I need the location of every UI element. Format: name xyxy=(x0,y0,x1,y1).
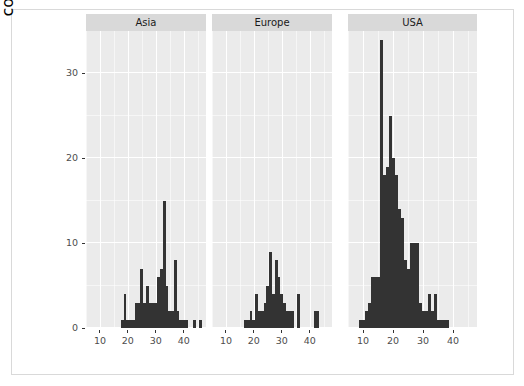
gridline-major-vertical xyxy=(226,31,227,328)
y-axis-title: count xyxy=(0,3,17,17)
panel-plot-area xyxy=(212,31,332,328)
tick-mark xyxy=(82,328,85,329)
histogram-bar xyxy=(317,311,320,328)
tick-mark xyxy=(82,73,85,74)
facet-panel-usa: USA xyxy=(348,14,477,328)
facet-panel-asia: Asia xyxy=(86,14,206,328)
x-axis-tick-label: 20 xyxy=(387,335,399,346)
x-axis-tick: 10 xyxy=(87,330,113,346)
gridline-minor-vertical xyxy=(438,31,439,328)
x-axis-tick: 20 xyxy=(115,330,141,346)
gridline-major-vertical xyxy=(254,31,255,328)
tick-mark xyxy=(225,330,226,333)
x-axis-tick: 40 xyxy=(297,330,323,346)
x-axis-tick: 40 xyxy=(440,330,466,346)
facet-panel-europe: Europe xyxy=(212,14,332,328)
y-axis-tick-label: 30 xyxy=(66,67,78,78)
facet-strip-label: Europe xyxy=(212,14,332,31)
gridline-minor-vertical xyxy=(212,31,213,328)
x-axis-tick: 20 xyxy=(380,330,406,346)
y-axis-tick: 30 xyxy=(66,67,85,79)
x-axis-tick: 30 xyxy=(269,330,295,346)
gridline-major-vertical xyxy=(184,31,185,328)
tick-mark xyxy=(281,330,282,333)
gridline-minor-vertical xyxy=(348,31,349,328)
x-axis-tick-label: 40 xyxy=(178,335,190,346)
gridline-major-horizontal xyxy=(212,72,332,73)
gridline-minor-horizontal xyxy=(86,115,206,116)
gridline-minor-vertical xyxy=(324,31,325,328)
x-axis-europe: 10203040 xyxy=(212,330,332,352)
tick-mark xyxy=(393,330,394,333)
tick-mark xyxy=(99,330,100,333)
x-axis-tick-label: 30 xyxy=(276,335,288,346)
gridline-major-vertical xyxy=(423,31,424,328)
histogram-bar xyxy=(297,294,300,328)
y-axis-tick-label: 10 xyxy=(66,237,78,248)
x-axis-tick-label: 10 xyxy=(220,335,232,346)
gridline-minor-vertical xyxy=(468,31,469,328)
x-axis-tick: 10 xyxy=(350,330,376,346)
tick-mark xyxy=(82,158,85,159)
histogram-bar xyxy=(193,320,196,328)
tick-mark xyxy=(253,330,254,333)
tick-mark xyxy=(453,330,454,333)
y-axis-tick-label: 0 xyxy=(72,322,78,333)
facet-strip-label: USA xyxy=(348,14,477,31)
gridline-minor-vertical xyxy=(86,31,87,328)
y-axis-tick: 10 xyxy=(66,237,85,249)
tick-mark xyxy=(82,243,85,244)
gridline-minor-horizontal xyxy=(86,200,206,201)
tick-mark xyxy=(309,330,310,333)
x-axis-tick-label: 40 xyxy=(447,335,459,346)
y-axis: 0102030 xyxy=(44,32,85,328)
x-axis-tick: 40 xyxy=(171,330,197,346)
x-axis-tick-label: 10 xyxy=(94,335,106,346)
gridline-minor-horizontal xyxy=(212,200,332,201)
histogram-bar xyxy=(292,311,295,328)
gridline-minor-vertical xyxy=(296,31,297,328)
gridline-major-vertical xyxy=(310,31,311,328)
x-axis-tick-label: 10 xyxy=(357,335,369,346)
x-axis-tick-label: 30 xyxy=(417,335,429,346)
gridline-major-horizontal xyxy=(86,157,206,158)
x-axis-usa: 10203040 xyxy=(348,330,477,352)
panel-plot-area xyxy=(348,31,477,328)
gridline-major-vertical xyxy=(128,31,129,328)
panel-plot-area xyxy=(86,31,206,328)
gridline-major-horizontal xyxy=(86,72,206,73)
gridline-major-horizontal xyxy=(212,242,332,243)
gridline-minor-horizontal xyxy=(212,115,332,116)
gridline-minor-horizontal xyxy=(348,115,477,116)
gridline-minor-horizontal xyxy=(212,285,332,286)
x-axis-tick: 20 xyxy=(241,330,267,346)
gridline-major-vertical xyxy=(282,31,283,328)
histogram-bar xyxy=(185,320,188,328)
tick-mark xyxy=(155,330,156,333)
facet-strip-label: Asia xyxy=(86,14,206,31)
gridline-major-horizontal xyxy=(212,157,332,158)
tick-mark xyxy=(363,330,364,333)
x-axis-tick-label: 20 xyxy=(122,335,134,346)
gridline-minor-vertical xyxy=(240,31,241,328)
x-axis-tick: 10 xyxy=(213,330,239,346)
x-axis-asia: 10203040 xyxy=(86,330,206,352)
y-axis-tick-label: 20 xyxy=(66,152,78,163)
gridline-major-horizontal xyxy=(86,242,206,243)
histogram-bar xyxy=(446,320,449,328)
gridline-major-vertical xyxy=(453,31,454,328)
x-axis-tick: 30 xyxy=(410,330,436,346)
gridline-major-vertical xyxy=(100,31,101,328)
histogram-bar xyxy=(199,320,202,328)
gridline-major-vertical xyxy=(363,31,364,328)
x-axis-tick-label: 20 xyxy=(248,335,260,346)
plot-root: count mpg 0102030 AsiaEuropeUSA 10203040… xyxy=(0,0,524,386)
x-axis-tick-label: 30 xyxy=(150,335,162,346)
gridline-minor-vertical xyxy=(170,31,171,328)
gridline-minor-horizontal xyxy=(348,200,477,201)
gridline-major-horizontal xyxy=(348,157,477,158)
y-axis-tick: 0 xyxy=(72,322,85,334)
tick-mark xyxy=(423,330,424,333)
x-axis-tick-label: 40 xyxy=(304,335,316,346)
tick-mark xyxy=(183,330,184,333)
